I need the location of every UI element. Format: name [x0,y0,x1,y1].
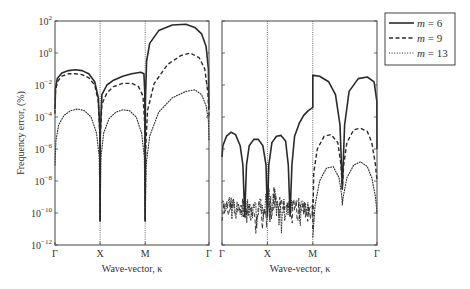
x-tick-label: X [96,248,104,259]
y-tick-label: 10−2 [35,78,53,91]
y-tick-label: 10−6 [35,142,53,155]
left-x-axis-label: Wave-vector, κ [102,263,162,274]
curve-m6 [222,75,377,216]
legend-label: m = 13 [417,47,448,59]
x-tick-label: Γ [374,248,380,259]
curve-m13 [313,162,377,237]
x-tick-label: M [308,248,317,259]
left-vertical-guides [100,21,145,245]
frequency-error-chart: Frequency error, (%) 10210010−210−410−61… [0,0,470,289]
x-tick-label: Γ [52,248,58,259]
x-tick-label: Γ [219,248,225,259]
legend-label: m = 9 [417,32,443,44]
y-tick-label: 10−8 [35,174,53,187]
x-tick-label: M [141,248,150,259]
right-curves [222,75,377,237]
curve-m9 [55,53,209,221]
curve-m9 [313,128,377,229]
right-x-axis-label: Wave-vector, κ [270,263,330,274]
right-panel: ΓXMΓ Wave-vector, κ [219,21,380,274]
y-tick-label: 100 [39,46,53,59]
y-tick-label: 102 [39,14,53,27]
y-tick-label: 10−10 [31,206,52,219]
left-curves [55,24,209,221]
y-axis-label: Frequency error, (%) [15,91,27,175]
legend-label: m = 6 [417,17,443,29]
y-tick-label: 10−4 [35,110,53,123]
curve-m13 [55,90,209,221]
left-y-ticks: 10210010−210−410−610−810−1010−12 [31,14,209,251]
left-panel: 10210010−210−410−610−810−1010−12 ΓXMΓ Wa… [31,14,212,275]
x-tick-label: Γ [206,248,212,259]
legend: m = 6m = 9m = 13 [385,13,455,65]
x-tick-label: X [264,248,272,259]
y-tick-label: 10−12 [31,238,52,251]
